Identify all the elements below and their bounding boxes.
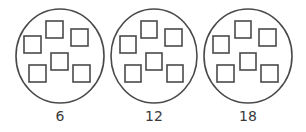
circle-group-2 bbox=[111, 9, 197, 103]
circle-group-3 bbox=[204, 9, 292, 103]
circle-group-1 bbox=[16, 9, 104, 103]
square-shape bbox=[125, 65, 141, 82]
square-shape bbox=[235, 21, 251, 38]
square-shape bbox=[167, 65, 183, 82]
square-shape bbox=[51, 53, 68, 70]
square-shape bbox=[120, 36, 136, 53]
square-shape bbox=[259, 29, 276, 46]
diagram-canvas: 6 12 18 bbox=[0, 0, 306, 132]
square-shape bbox=[240, 53, 256, 70]
circle-outline bbox=[16, 9, 104, 103]
square-shape bbox=[213, 36, 229, 53]
circle-outline bbox=[111, 9, 197, 103]
group-label-3: 18 bbox=[228, 108, 268, 124]
group-label-2: 12 bbox=[134, 108, 174, 124]
circle-outline bbox=[204, 9, 292, 103]
square-shape bbox=[165, 29, 182, 46]
square-shape bbox=[141, 21, 157, 38]
square-shape bbox=[24, 36, 41, 53]
square-shape bbox=[71, 29, 88, 46]
square-shape bbox=[146, 53, 162, 70]
square-shape bbox=[73, 65, 90, 82]
square-shape bbox=[217, 65, 234, 82]
square-shape bbox=[29, 65, 46, 82]
group-label-1: 6 bbox=[40, 108, 80, 124]
square-shape bbox=[261, 65, 278, 82]
square-shape bbox=[46, 21, 63, 38]
